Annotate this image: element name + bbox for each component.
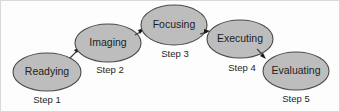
- step-label-5: Step 5: [282, 93, 309, 104]
- step-label-2: Step 2: [96, 64, 123, 75]
- step-label-4: Step 4: [228, 62, 255, 73]
- node-imaging-label: Imaging: [89, 36, 127, 48]
- step-label-3: Step 3: [161, 48, 188, 59]
- step-label-1: Step 1: [33, 94, 60, 105]
- node-evaluating[interactable]: Evaluating: [263, 52, 329, 90]
- node-readying[interactable]: Readying: [13, 53, 81, 91]
- node-readying-label: Readying: [25, 65, 70, 77]
- node-focusing[interactable]: Focusing: [141, 5, 207, 45]
- process-flow-diagram: Readying Step 1 Imaging Step 2 Focusing …: [0, 0, 340, 112]
- node-focusing-label: Focusing: [153, 18, 196, 30]
- diagram-canvas: Readying Step 1 Imaging Step 2 Focusing …: [0, 0, 340, 112]
- node-evaluating-label: Evaluating: [271, 64, 320, 76]
- node-imaging[interactable]: Imaging: [75, 24, 141, 62]
- node-executing[interactable]: Executing: [207, 20, 273, 58]
- node-executing-label: Executing: [217, 32, 263, 44]
